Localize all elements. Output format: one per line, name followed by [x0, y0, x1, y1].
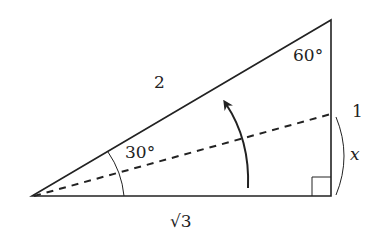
- segment-x-label: x: [350, 146, 360, 163]
- top-angle-label: 60°: [293, 47, 323, 64]
- segment-bracket-arc: [336, 117, 344, 195]
- bottom-angle-label: 30°: [125, 144, 155, 161]
- hypotenuse-label: 2: [154, 74, 165, 91]
- triangle-outline: [32, 20, 331, 196]
- right-angle-marker: [312, 177, 331, 196]
- triangle-diagram: 2 60° 30° 1 x √3: [0, 0, 381, 251]
- vertical-side-label: 1: [352, 103, 363, 120]
- rotation-arrow-icon: [226, 104, 248, 188]
- base-label: √3: [170, 213, 192, 230]
- dashed-bisector-line: [34, 114, 331, 196]
